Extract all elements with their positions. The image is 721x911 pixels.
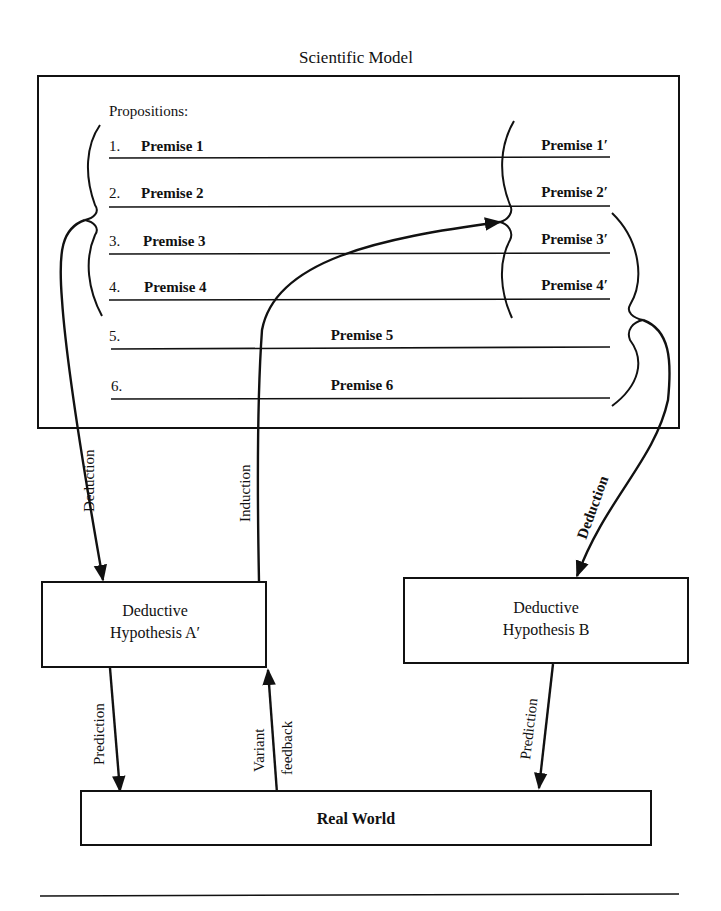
svg-text:Premise 2′: Premise 2′ [541,184,608,200]
svg-text:Premise 4: Premise 4 [144,279,207,295]
prediction-arrow-b [539,664,553,788]
variant-label: Variant [251,728,267,772]
feedback-arrow [268,670,277,793]
svg-text:3.: 3. [109,233,120,249]
prediction-label-b: Prediction [517,697,540,761]
hypothesis-a-line2: Hypothesis A′ [110,624,200,642]
deduction-label-b: Deduction [574,473,612,541]
diagram-canvas: Scientific Model Propositions: 1. Premis… [0,0,721,911]
induction-label: Induction [237,464,253,522]
bottom-rule [40,894,679,896]
diagram-title: Scientific Model [299,48,413,67]
svg-text:Premise 2: Premise 2 [141,185,204,201]
svg-text:Premise 6: Premise 6 [331,377,394,393]
svg-text:Premise 5: Premise 5 [331,327,394,343]
svg-text:6.: 6. [111,378,122,394]
deduction-label-a: Deduction [81,449,97,512]
svg-text:2.: 2. [109,185,120,201]
hypothesis-a-line1: Deductive [122,602,188,619]
svg-text:Premise 3: Premise 3 [143,233,206,249]
svg-text:Premise 1′: Premise 1′ [541,137,608,153]
svg-text:Premise 3′: Premise 3′ [541,231,608,247]
svg-text:5.: 5. [109,328,120,344]
svg-text:4.: 4. [109,279,120,295]
feedback-label: feedback [279,720,295,775]
svg-text:Premise 4′: Premise 4′ [541,277,608,293]
scientific-model-box [38,76,679,428]
svg-text:Premise 1: Premise 1 [141,138,204,154]
propositions-header: Propositions: [109,103,188,119]
svg-text:1.: 1. [109,138,120,154]
hypothesis-b-line1: Deductive [513,599,579,616]
prediction-arrow-a [110,668,120,791]
hypothesis-b-line2: Hypothesis B [503,621,590,639]
real-world-label: Real World [317,810,395,827]
prediction-label-a: Prediction [91,703,107,765]
